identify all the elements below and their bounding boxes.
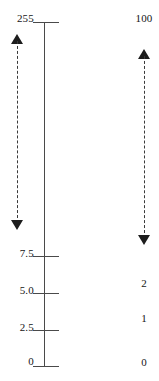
left-range-arrow-shaft (17, 41, 18, 223)
right-axis-label-1: 1 (129, 312, 159, 324)
left-axis-tick-2-5 (33, 330, 59, 331)
left-range-arrow (11, 34, 24, 230)
right-range-arrow (138, 49, 151, 245)
left-axis-spine (44, 22, 45, 367)
left-axis-label-255: 255 (0, 12, 34, 24)
right-range-arrow-shaft (144, 56, 145, 238)
bottom-clipped-caption: · · · (0, 370, 159, 381)
left-axis-tick-7-5 (33, 256, 59, 257)
left-axis-label-7-5: 7.5 (0, 247, 34, 259)
left-axis-tick-5-0 (33, 293, 59, 294)
left-axis-tick-0 (33, 366, 59, 367)
dual-scale-diagram: 255 7.5 5.0 2.5 0 100 2 1 0 · · · (0, 0, 159, 381)
bottom-clipped-caption-text: · · · (0, 370, 159, 373)
right-axis-label-0: 0 (129, 356, 159, 368)
right-axis-label-100: 100 (129, 12, 159, 24)
left-axis-label-5-0: 5.0 (0, 284, 34, 296)
left-axis-label-2-5: 2.5 (0, 321, 34, 333)
left-axis-tick-255 (33, 22, 59, 23)
right-range-arrow-head-down (138, 235, 150, 245)
left-axis-label-0: 0 (0, 355, 34, 367)
right-axis-label-2: 2 (129, 277, 159, 289)
left-range-arrow-head-down (11, 220, 23, 230)
